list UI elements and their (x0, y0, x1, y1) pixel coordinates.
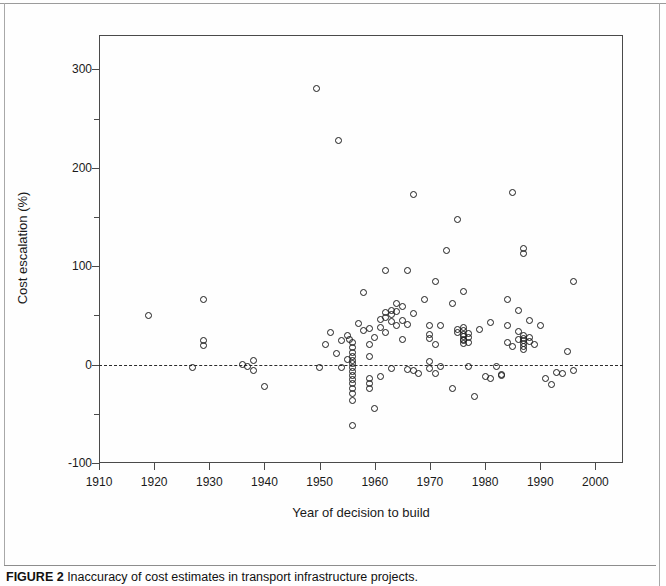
data-point (360, 289, 367, 296)
data-point (487, 375, 494, 382)
y-axis-title: Cost escalation (%) (15, 192, 30, 305)
data-point (421, 296, 428, 303)
y-tick--100 (92, 463, 99, 464)
x-tick-label-1910: 1910 (86, 475, 113, 489)
data-point (333, 350, 340, 357)
data-point (366, 341, 373, 348)
x-tick-label-2000: 2000 (582, 475, 609, 489)
data-point (316, 364, 323, 371)
data-point (426, 335, 433, 342)
data-point (443, 247, 450, 254)
data-point (404, 321, 411, 328)
data-point (377, 373, 384, 380)
data-point (515, 307, 522, 314)
data-point (415, 370, 422, 377)
y-tick-200 (92, 168, 99, 169)
data-point (250, 367, 257, 374)
data-point (432, 341, 439, 348)
data-point (366, 385, 373, 392)
data-point (250, 357, 257, 364)
data-point (200, 296, 207, 303)
data-point (349, 397, 356, 404)
x-tick-label-1940: 1940 (251, 475, 278, 489)
x-tick-1960 (375, 463, 376, 470)
data-point (338, 364, 345, 371)
page-border-bottom (4, 565, 656, 566)
data-point (399, 303, 406, 310)
figure-caption-text: Inaccuracy of cost estimates in transpor… (67, 570, 418, 584)
data-point (570, 278, 577, 285)
y-tick-100 (92, 266, 99, 267)
data-point (465, 339, 472, 346)
data-point (504, 322, 511, 329)
data-point (261, 383, 268, 390)
data-point (454, 216, 461, 223)
data-point (564, 348, 571, 355)
data-point (313, 85, 320, 92)
data-point (509, 343, 516, 350)
data-point (349, 390, 356, 397)
data-point (537, 322, 544, 329)
data-point (399, 336, 406, 343)
data-point (460, 288, 467, 295)
data-point (426, 322, 433, 329)
data-point (432, 370, 439, 377)
y-tick-label-100: 100 (72, 259, 92, 273)
data-point (432, 278, 439, 285)
y-tick-label-0: 0 (85, 358, 92, 372)
data-point (437, 363, 444, 370)
plot-area: -1000100200300 1910192019301940195019601… (99, 35, 623, 463)
x-tick-label-1920: 1920 (141, 475, 168, 489)
data-point (410, 310, 417, 317)
data-point (449, 300, 456, 307)
data-point (371, 334, 378, 341)
x-tick-1940 (264, 463, 265, 470)
x-tick-1950 (320, 463, 321, 470)
data-point (366, 325, 373, 332)
data-point (487, 319, 494, 326)
data-point (570, 367, 577, 374)
data-point (327, 329, 334, 336)
x-tick-label-1950: 1950 (306, 475, 333, 489)
data-point (476, 326, 483, 333)
data-point (388, 365, 395, 372)
y-tick-label-300: 300 (72, 62, 92, 76)
figure-caption: FIGURE 2 Inaccuracy of cost estimates in… (6, 570, 656, 586)
x-tick-1920 (154, 463, 155, 470)
data-point (465, 363, 472, 370)
y-tick-minor-250 (94, 119, 99, 120)
data-point (145, 312, 152, 319)
y-tick-minor-50 (94, 315, 99, 316)
x-tick-label-1980: 1980 (472, 475, 499, 489)
data-point (520, 346, 527, 353)
zero-reference-line (99, 365, 623, 366)
data-point (404, 267, 411, 274)
data-point (509, 189, 516, 196)
x-tick-label-1970: 1970 (417, 475, 444, 489)
x-tick-2000 (595, 463, 596, 470)
scatter-chart: -1000100200300 1910192019301940195019601… (0, 0, 666, 560)
y-tick-minor--50 (94, 414, 99, 415)
data-point (371, 405, 378, 412)
data-point (366, 353, 373, 360)
data-point (382, 267, 389, 274)
x-tick-1930 (209, 463, 210, 470)
y-tick-300 (92, 69, 99, 70)
data-point (531, 341, 538, 348)
data-point (322, 341, 329, 348)
y-tick-minor-150 (94, 217, 99, 218)
data-point (493, 363, 500, 370)
data-point (520, 250, 527, 257)
x-tick-label-1960: 1960 (361, 475, 388, 489)
y-tick-label--100: -100 (68, 456, 92, 470)
x-tick-1980 (485, 463, 486, 470)
data-point (410, 191, 417, 198)
figure-page: -1000100200300 1910192019301940195019601… (0, 0, 666, 586)
data-point (504, 296, 511, 303)
x-tick-1970 (430, 463, 431, 470)
data-point (559, 370, 566, 377)
x-tick-1910 (99, 463, 100, 470)
data-point (548, 381, 555, 388)
data-point (526, 317, 533, 324)
data-point (471, 393, 478, 400)
